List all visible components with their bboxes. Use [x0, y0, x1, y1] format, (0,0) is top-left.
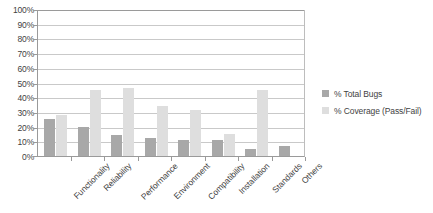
- bar-group: [273, 10, 307, 156]
- bar: [257, 90, 268, 156]
- y-axis-tick-label: 40%: [0, 94, 34, 103]
- bar-group: [105, 10, 139, 156]
- y-axis-tick-label: 30%: [0, 108, 34, 117]
- y-axis-tick-label: 100%: [0, 6, 34, 15]
- y-axis-tick-label: 80%: [0, 35, 34, 44]
- y-axis-tick-label: 0%: [0, 153, 34, 162]
- y-axis-tick-label: 70%: [0, 50, 34, 59]
- bar-group: [139, 10, 173, 156]
- y-axis-tick-label: 10%: [0, 138, 34, 147]
- legend-swatch-icon: [322, 90, 329, 97]
- bar-group: [38, 10, 72, 156]
- bar: [178, 140, 189, 156]
- legend-label: % Coverage (Pass/Fail): [334, 106, 422, 116]
- x-axis-category-labels: FunctionalityReliabilityPerformanceEnvir…: [37, 161, 327, 213]
- bar: [123, 88, 134, 156]
- bar: [157, 106, 168, 156]
- bar: [90, 90, 101, 156]
- y-axis-tick-label: 50%: [0, 79, 34, 88]
- bar: [111, 135, 122, 156]
- bar: [56, 115, 67, 156]
- bar: [224, 134, 235, 156]
- plot-area: [37, 10, 305, 157]
- bar-group: [72, 10, 106, 156]
- bar: [279, 146, 290, 156]
- bar: [212, 140, 223, 156]
- x-axis-category-label: Others: [300, 161, 325, 186]
- legend-label: % Total Bugs: [334, 89, 382, 99]
- y-axis-tick-label: 60%: [0, 64, 34, 73]
- bar: [245, 149, 256, 156]
- bar: [78, 127, 89, 156]
- bar-group: [172, 10, 206, 156]
- bar: [145, 138, 156, 156]
- bar: [190, 110, 201, 156]
- chart-legend: % Total Bugs% Coverage (Pass/Fail): [322, 86, 430, 120]
- bar-group: [239, 10, 273, 156]
- bars-layer: [38, 10, 304, 156]
- bar-chart: 100%90%80%70%60%50%40%30%20%10%0% Functi…: [0, 0, 433, 213]
- y-axis-tick-label: 90%: [0, 20, 34, 29]
- bar: [44, 119, 55, 156]
- y-axis-tick-label: 20%: [0, 123, 34, 132]
- legend-item: % Total Bugs: [322, 86, 430, 101]
- legend-item: % Coverage (Pass/Fail): [322, 103, 430, 118]
- y-axis-tick-labels: 100%90%80%70%60%50%40%30%20%10%0%: [0, 4, 34, 152]
- legend-swatch-icon: [322, 107, 329, 114]
- bar-group: [206, 10, 240, 156]
